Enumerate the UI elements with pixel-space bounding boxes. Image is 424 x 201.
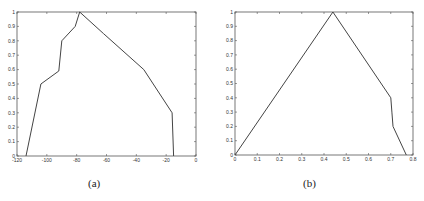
y-tick-label: 0.1: [226, 137, 233, 143]
y-tick-label: 0.4: [8, 95, 15, 101]
y-tick-label: 1: [230, 9, 233, 15]
chart-b: 00.10.20.30.40.50.60.70.800.10.20.30.40.…: [226, 9, 417, 162]
y-tick-label: 0.5: [226, 80, 233, 86]
x-tick-label: 0.5: [343, 156, 350, 162]
y-tick-label: 0.2: [8, 124, 15, 130]
caption-b: (b): [303, 177, 316, 189]
y-tick-label: 0.5: [8, 81, 15, 87]
chart-a: -120-100-80-60-40-20000.10.20.30.40.50.6…: [8, 9, 198, 163]
y-tick-label: 0.6: [8, 66, 15, 72]
y-tick-label: 0.7: [226, 52, 233, 58]
y-tick-label: 0.8: [8, 38, 15, 44]
y-tick-label: 0.7: [8, 52, 15, 58]
y-tick-label: 0.2: [226, 123, 233, 129]
x-tick-label: 0.6: [365, 156, 372, 162]
y-tick-label: 0.1: [8, 138, 15, 144]
axes-frame: [235, 12, 413, 155]
y-tick-label: 1: [12, 9, 15, 15]
x-tick-label: -40: [133, 157, 140, 163]
x-tick-label: 0: [234, 156, 237, 162]
y-tick-label: 0.9: [8, 23, 15, 29]
y-tick-label: 0: [12, 153, 15, 159]
x-tick-label: -100: [42, 157, 52, 163]
x-tick-label: 0.7: [387, 156, 394, 162]
y-tick-label: 0.3: [226, 109, 233, 115]
x-tick-label: 0: [195, 157, 198, 163]
axes-frame: [17, 12, 196, 156]
y-tick-label: 0.3: [8, 110, 15, 116]
x-tick-label: 0.1: [254, 156, 261, 162]
y-tick-label: 0: [230, 152, 233, 158]
x-tick-label: 0.2: [276, 156, 283, 162]
figure-canvas: -120-100-80-60-40-20000.10.20.30.40.50.6…: [0, 0, 424, 201]
x-tick-label: -20: [163, 157, 170, 163]
x-tick-label: -80: [73, 157, 80, 163]
x-tick-label: 0.8: [410, 156, 417, 162]
y-tick-label: 0.8: [226, 37, 233, 43]
caption-a: (a): [88, 177, 100, 189]
x-tick-label: -60: [103, 157, 110, 163]
x-tick-label: 0.3: [298, 156, 305, 162]
y-tick-label: 0.4: [226, 95, 233, 101]
y-tick-label: 0.6: [226, 66, 233, 72]
x-tick-label: 0.4: [321, 156, 328, 162]
y-tick-label: 0.9: [226, 23, 233, 29]
